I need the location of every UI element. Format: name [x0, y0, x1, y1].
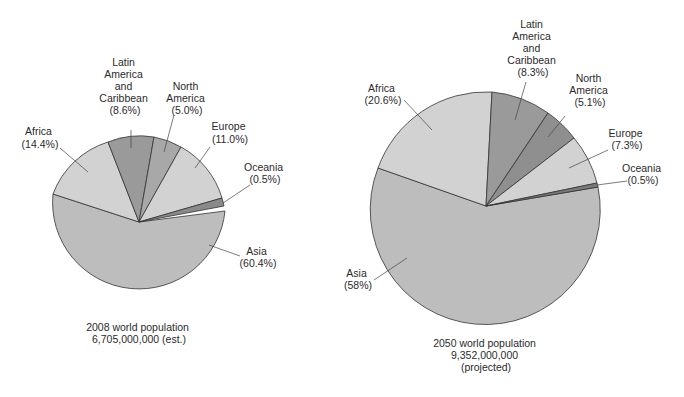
label-2050-oceania: Oceania (0.5%) — [622, 162, 664, 186]
pie-2050: Africa (20.6%) Latin America and Caribbe… — [344, 18, 664, 373]
caption-2050: 2050 world population 9,352,000,000 (pro… — [433, 337, 539, 373]
label-2050-north-america: North America (5.1%) — [569, 72, 610, 108]
label-2008-africa: Africa (14.4%) — [22, 125, 59, 150]
label-2008-asia: Asia (60.4%) — [240, 245, 277, 269]
label-2050-europe: Europe (7.3%) — [609, 127, 646, 151]
label-2050-africa: Africa (20.6%) — [365, 82, 402, 106]
pie-2008: Africa (14.4%) Latin America and Caribbe… — [22, 56, 286, 345]
label-2008-latin-america: Latin America and Caribbean (8.6%) — [99, 56, 150, 116]
label-2008-oceania: Oceania (0.5%) — [244, 161, 286, 185]
label-2008-north-america: North America (5.0%) — [166, 80, 207, 116]
caption-2008: 2008 world population 6,705,000,000 (est… — [86, 321, 192, 345]
population-pie-charts: Africa (14.4%) Latin America and Caribbe… — [0, 0, 684, 397]
label-2050-latin-america: Latin America and Caribbean (8.3%) — [507, 18, 558, 78]
label-2050-asia: Asia (58%) — [344, 267, 372, 291]
label-2008-europe: Europe (11.0%) — [212, 120, 249, 145]
